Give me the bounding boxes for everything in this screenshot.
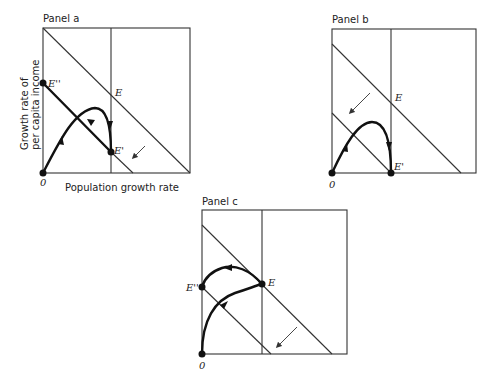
y-axis-label-line2: per capita income xyxy=(30,60,41,150)
panel-c-title: Panel c xyxy=(202,196,238,207)
panel-c-lower-diagonal xyxy=(202,287,271,354)
shift-arrow-icon xyxy=(351,93,370,112)
panel-a-title: Panel a xyxy=(43,13,79,24)
panel-c-curve-lower xyxy=(202,284,262,354)
label-origin: 0 xyxy=(329,179,336,190)
y-axis-label-line1: Growth rate of xyxy=(19,77,30,150)
point-origin xyxy=(329,170,336,177)
label-origin: 0 xyxy=(40,177,47,188)
label-e-double-prime: E'' xyxy=(185,282,199,293)
panel-b-curve xyxy=(332,122,391,173)
point-e-double-prime xyxy=(199,284,206,291)
panel-b-frame xyxy=(332,29,476,173)
panel-b-title: Panel b xyxy=(332,14,369,25)
label-e-prime: E' xyxy=(113,145,124,156)
label-e-double-prime: E'' xyxy=(47,78,61,89)
x-axis-label: Population growth rate xyxy=(65,182,179,193)
arrow-icon xyxy=(342,143,348,152)
label-origin: 0 xyxy=(199,360,206,371)
panel-b-upper-diagonal xyxy=(332,44,461,173)
label-e: E xyxy=(114,87,123,98)
panel-a: Panel a 0 E'' E E' Population growth rat… xyxy=(19,13,190,193)
shift-arrow-icon xyxy=(134,146,145,157)
point-origin xyxy=(199,351,206,358)
point-origin xyxy=(40,170,47,177)
point-e xyxy=(259,281,266,288)
panel-b: Panel b 0 E E' xyxy=(329,14,477,190)
arrow-icon xyxy=(224,264,232,271)
arrow-icon xyxy=(87,119,95,126)
label-e: E xyxy=(267,277,276,288)
panel-c-upper-diagonal xyxy=(202,225,332,354)
panel-c: Panel c 0 E'' E xyxy=(185,196,347,371)
shift-arrow-icon xyxy=(278,327,297,346)
label-e-prime: E' xyxy=(393,161,404,172)
label-e: E xyxy=(394,92,403,103)
panel-b-lower-diagonal xyxy=(332,113,391,173)
